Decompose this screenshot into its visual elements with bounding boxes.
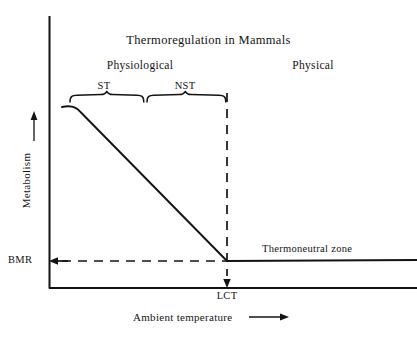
thermoneutral-zone-line (227, 260, 417, 261)
down-arrow-icon (223, 279, 230, 288)
right-arrow-icon (249, 313, 289, 320)
nst-brace (147, 91, 226, 102)
bmr-label: BMR (8, 255, 32, 266)
left-arrow-icon (49, 257, 68, 264)
figure-title: Thermoregulation in Mammals (0, 34, 417, 47)
thermoneutral-zone-label: Thermoneutral zone (262, 244, 352, 255)
region-label-physiological: Physiological (88, 60, 192, 72)
bmr-reference-line (49, 257, 227, 264)
brace-label-st: ST (82, 81, 126, 92)
lct-label: LCT (205, 291, 249, 302)
st-brace (70, 91, 144, 102)
region-label-physical: Physical (262, 60, 364, 72)
thermoregulation-figure: Thermoregulation in Mammals Physiologica… (0, 0, 417, 337)
figure-canvas (0, 0, 417, 337)
brace-label-nst: NST (163, 81, 207, 92)
metabolic-rate-curve (62, 106, 227, 261)
x-axis-label: Ambient temperature (133, 312, 232, 323)
y-axis-label: Metabolism (21, 133, 32, 229)
up-arrow-icon (31, 111, 38, 141)
